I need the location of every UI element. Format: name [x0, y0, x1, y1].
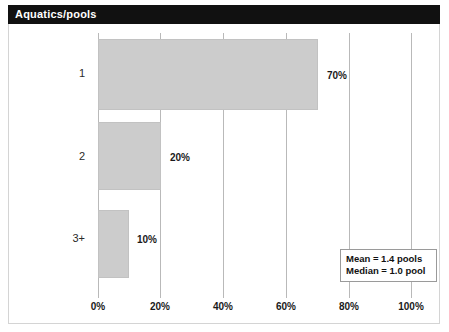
- bar-value-label-3plus: 10%: [137, 234, 157, 245]
- category-label-1: 1: [45, 67, 85, 79]
- bar-category-3plus[interactable]: [98, 210, 129, 278]
- xtick-label-20: 20%: [137, 301, 183, 312]
- bar-category-2[interactable]: [98, 122, 161, 190]
- bar-category-1[interactable]: [98, 39, 318, 110]
- stats-mean: Mean = 1.4 pools: [346, 253, 431, 265]
- stats-median: Median = 1.0 pool: [346, 265, 431, 277]
- bar-value-label-1: 70%: [327, 70, 347, 81]
- page-title: Aquatics/pools: [15, 8, 97, 20]
- xtick-label-80: 80%: [326, 301, 372, 312]
- xtick-label-100: 100%: [388, 301, 434, 312]
- bar-value-label-2: 20%: [170, 152, 190, 163]
- xtick-label-60: 60%: [263, 301, 309, 312]
- xtick-label-40: 40%: [200, 301, 246, 312]
- title-bar: Aquatics/pools: [8, 5, 440, 24]
- xtick-label-0: 0%: [75, 301, 121, 312]
- stats-annotation-box: Mean = 1.4 pools Median = 1.0 pool: [340, 249, 437, 282]
- category-label-2: 2: [45, 150, 85, 162]
- chart-figure: Aquatics/pools 70% 20% 10% 1 2 3+ 0% 20%…: [0, 0, 449, 332]
- category-label-3plus: 3+: [45, 232, 85, 244]
